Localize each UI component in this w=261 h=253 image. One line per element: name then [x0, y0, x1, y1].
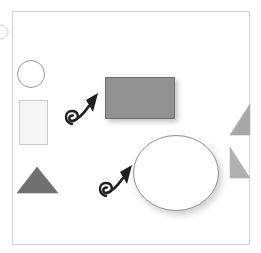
gray-filled-rectangle [106, 78, 175, 119]
scene-svg [0, 0, 261, 253]
frame-border [13, 12, 250, 245]
partial-circle-left-edge [0, 25, 8, 39]
large-white-ellipse [134, 136, 219, 211]
scene-canvas [0, 0, 261, 253]
light-gray-rectangle [20, 101, 48, 145]
outline-circle-small [18, 61, 45, 88]
